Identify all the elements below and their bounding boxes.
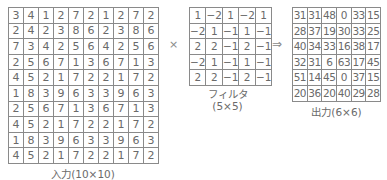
matrix-cell: 36: [307, 85, 322, 101]
matrix-cell: 7: [69, 117, 84, 133]
matrix-cell: 3: [84, 54, 99, 70]
matrix-cell: 6: [39, 54, 54, 70]
output-matrix-body: 3131480331528371930332540343316381732316…: [293, 8, 381, 102]
matrix-cell: 2: [39, 23, 54, 39]
matrix-cell: 6: [39, 101, 54, 117]
matrix-cell: 6: [69, 85, 84, 101]
matrix-row: 3412721272: [9, 8, 159, 24]
matrix-cell: 9: [54, 85, 69, 101]
matrix-cell: 45: [322, 70, 337, 86]
matrix-cell: 1: [114, 70, 129, 86]
matrix-cell: 2: [84, 117, 99, 133]
matrix-cell: 2: [39, 117, 54, 133]
matrix-cell: 3: [9, 8, 24, 24]
matrix-cell: 5: [24, 54, 39, 70]
matrix-cell: 14: [307, 70, 322, 86]
matrix-cell: 1: [99, 8, 114, 24]
matrix-cell: 1: [54, 117, 69, 133]
matrix-cell: 17: [351, 54, 366, 70]
matrix-cell: 5: [24, 148, 39, 164]
matrix-cell: 40: [337, 85, 352, 101]
matrix-cell: 1: [222, 8, 238, 24]
matrix-cell: 1: [129, 101, 144, 117]
matrix-cell: 7: [129, 148, 144, 164]
matrix-row: −21−11−1: [190, 23, 272, 39]
matrix-cell: 33: [351, 8, 366, 24]
matrix-cell: 6: [322, 54, 337, 70]
matrix-cell: 1: [114, 117, 129, 133]
matrix-row: 403433163817: [293, 39, 381, 55]
matrix-cell: 7: [114, 101, 129, 117]
matrix-cell: 37: [351, 70, 366, 86]
matrix-cell: 6: [69, 132, 84, 148]
matrix-cell: 2: [39, 148, 54, 164]
implies-arrow-symbol: ⇒: [272, 37, 282, 51]
matrix-cell: 38: [351, 39, 366, 55]
matrix-cell: 2: [190, 39, 206, 55]
matrix-cell: 5: [24, 70, 39, 86]
input-matrix-label: 入力(10×10): [8, 166, 158, 180]
matrix-cell: 19: [322, 23, 337, 39]
matrix-cell: 1: [206, 23, 222, 39]
matrix-row: 51144503715: [293, 70, 381, 86]
matrix-cell: 2: [54, 39, 69, 55]
matrix-cell: 1: [255, 8, 271, 24]
matrix-cell: 9: [114, 85, 129, 101]
matrix-row: 1839633963: [9, 132, 159, 148]
matrix-cell: 2: [54, 8, 69, 24]
filter-matrix-body: 1−21−21−21−11−122−12−1−21−11−122−12−1: [190, 8, 272, 86]
matrix-cell: 7: [114, 54, 129, 70]
matrix-cell: 3: [84, 85, 99, 101]
matrix-row: 2567136713: [9, 101, 159, 117]
matrix-cell: 33: [322, 39, 337, 55]
matrix-cell: 9: [54, 132, 69, 148]
matrix-cell: −1: [222, 39, 238, 55]
matrix-cell: 2: [84, 148, 99, 164]
matrix-cell: 1: [9, 132, 24, 148]
matrix-cell: 3: [39, 85, 54, 101]
matrix-cell: 3: [99, 85, 114, 101]
matrix-cell: −1: [255, 23, 271, 39]
matrix-cell: 8: [129, 23, 144, 39]
matrix-cell: 6: [144, 23, 159, 39]
matrix-row: 4521722172: [9, 117, 159, 133]
matrix-cell: 8: [69, 23, 84, 39]
matrix-cell: 25: [366, 23, 381, 39]
matrix-cell: 6: [99, 101, 114, 117]
matrix-cell: 3: [99, 132, 114, 148]
matrix-cell: 7: [129, 117, 144, 133]
matrix-row: 2423862386: [9, 23, 159, 39]
matrix-cell: 30: [337, 23, 352, 39]
matrix-cell: 17: [366, 39, 381, 55]
matrix-cell: 28: [293, 23, 308, 39]
matrix-cell: 1: [39, 8, 54, 24]
matrix-cell: 7: [69, 70, 84, 86]
matrix-cell: 3: [24, 39, 39, 55]
matrix-cell: 2: [9, 101, 24, 117]
matrix-cell: 2: [206, 70, 222, 86]
matrix-cell: 2: [99, 148, 114, 164]
matrix-cell: −2: [206, 8, 222, 24]
matrix-cell: 1: [54, 70, 69, 86]
matrix-cell: 6: [144, 39, 159, 55]
matrix-cell: 37: [307, 23, 322, 39]
matrix-cell: 4: [9, 148, 24, 164]
matrix-cell: 2: [190, 70, 206, 86]
matrix-row: 32316631745: [293, 54, 381, 70]
matrix-cell: 3: [144, 132, 159, 148]
matrix-cell: 7: [129, 8, 144, 24]
matrix-cell: 0: [337, 70, 352, 86]
matrix-cell: 4: [24, 8, 39, 24]
matrix-cell: 1: [129, 54, 144, 70]
matrix-cell: 34: [307, 39, 322, 55]
matrix-cell: 51: [293, 70, 308, 86]
matrix-row: 22−12−1: [190, 70, 272, 86]
input-matrix-body: 3412721272242386238673425642562567136713…: [9, 8, 159, 164]
matrix-cell: −1: [222, 23, 238, 39]
matrix-cell: −1: [222, 70, 238, 86]
matrix-cell: −1: [255, 70, 271, 86]
matrix-cell: 7: [9, 39, 24, 55]
matrix-cell: 8: [24, 132, 39, 148]
matrix-cell: 0: [337, 8, 352, 24]
matrix-cell: 15: [366, 70, 381, 86]
